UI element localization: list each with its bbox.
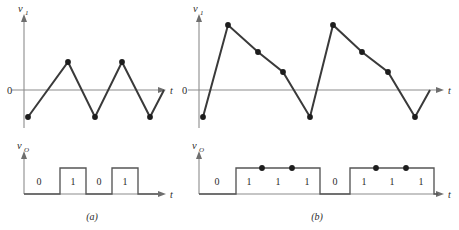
panel-b-sample-dot (330, 22, 336, 28)
panel-b-output-y-axis-label-subscript: O (199, 146, 204, 154)
panel-a-output-plot: 0 1 0 1 v O t (17, 140, 173, 200)
panel-b-bit-label: 1 (419, 176, 424, 187)
panel-a-output-y-axis-label-subscript: O (24, 146, 29, 154)
panel-a-sample-dot (65, 59, 71, 65)
panel-b-input-x-axis-label: t (448, 85, 451, 96)
panel-a-output-x-axis-arrow (158, 191, 166, 197)
panel-b-square-wave (199, 168, 438, 194)
panel-b-square-sample-dot (259, 165, 265, 171)
panel-b-input-x-axis-arrow (436, 87, 444, 93)
panel-a-bit-label: 1 (71, 176, 76, 187)
panel-a-sample-dot (147, 114, 153, 120)
panel-b-input-y-axis-label: v (193, 3, 198, 14)
panel-a-sample-dot (25, 114, 31, 120)
panel-a-bit-label: 0 (37, 176, 42, 187)
panel-b-sample-dot (385, 69, 391, 75)
panel-b-sample-dot (280, 69, 286, 75)
panel-b-sample-dot (359, 49, 365, 55)
panel-b-sample-dot (255, 49, 261, 55)
panel-b-output-y-axis-label: v (192, 140, 197, 151)
panel-a-output-y-axis-label: v (17, 140, 22, 151)
panel-a-input-zero-label: 0 (7, 85, 12, 96)
panel-b-bit-label: 0 (215, 176, 220, 187)
panel-b-sawtooth-wave (203, 25, 430, 117)
panel-b-bit-label: 1 (276, 176, 281, 187)
panel-b-square-sample-dot (289, 165, 295, 171)
panel-b-input-plot: v 1 0 t (182, 3, 451, 128)
panel-a-output-x-axis-label: t (170, 189, 173, 200)
panel-a-input-y-axis-label-subscript: 1 (25, 9, 29, 17)
panel-b-sample-dot (307, 114, 313, 120)
panel-a-input-plot: v 1 0 t (7, 3, 173, 128)
panel-b-sample-dot (200, 114, 206, 120)
panel-b-input-y-axis-label-subscript: 1 (200, 9, 204, 17)
panel-a-input-y-axis-label: v (18, 3, 23, 14)
panel-b-output-x-axis-label: t (448, 189, 451, 200)
panel-b-bit-label: 1 (305, 176, 310, 187)
waveform-figure: v 1 0 t 0 1 0 1 v O t (a) (0, 0, 459, 230)
panel-a-input-x-axis-label: t (170, 85, 173, 96)
panel-a-sample-dot (119, 59, 125, 65)
panel-b-input-zero-label: 0 (182, 85, 187, 96)
panel-b-bit-label: 1 (247, 176, 252, 187)
panel-b-square-sample-dot (403, 165, 409, 171)
panel-a-square-wave (24, 168, 158, 194)
panel-b-sample-dot (225, 22, 231, 28)
panel-b-caption: (b) (311, 211, 323, 223)
panel-a-sample-dot (92, 114, 98, 120)
figure-canvas: v 1 0 t 0 1 0 1 v O t (a) (0, 0, 459, 230)
panel-b-output-plot: 0 1 1 1 0 1 1 1 v O t (192, 140, 451, 200)
panel-b-bit-label: 0 (333, 176, 338, 187)
panel-a-caption: (a) (86, 211, 98, 223)
panel-a-bit-label: 0 (97, 176, 102, 187)
panel-b-bit-label: 1 (362, 176, 367, 187)
panel-b-sample-dot (412, 114, 418, 120)
panel-b-bit-label: 1 (390, 176, 395, 187)
panel-a-bit-label: 1 (123, 176, 128, 187)
panel-b-square-sample-dot (373, 165, 379, 171)
